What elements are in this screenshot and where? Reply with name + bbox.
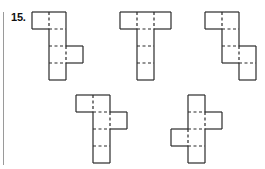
net-option-2 <box>120 12 171 80</box>
net-option-1 <box>32 12 83 80</box>
net-option-5 <box>171 95 222 163</box>
net-option-4 <box>76 95 127 163</box>
cube-nets-diagram <box>0 0 265 169</box>
net-option-3 <box>205 12 256 80</box>
